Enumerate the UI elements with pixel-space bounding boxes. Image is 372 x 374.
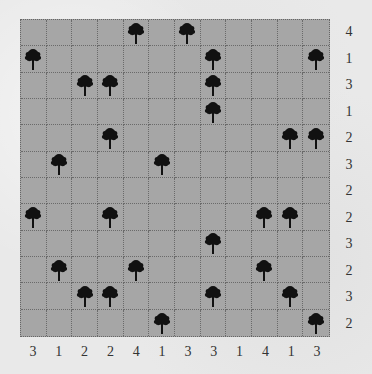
grid-cell-r11-c3[interactable] xyxy=(98,310,124,336)
grid-cell-r5-c6[interactable] xyxy=(175,152,201,178)
grid-cell-r5-c10[interactable] xyxy=(278,152,304,178)
grid-cell-r9-c5[interactable] xyxy=(149,257,175,283)
grid-cell-r2-c10[interactable] xyxy=(278,73,304,99)
grid-cell-r8-c7[interactable] xyxy=(201,231,227,257)
grid-cell-r10-c11[interactable] xyxy=(303,283,329,309)
grid-cell-r6-c0[interactable] xyxy=(21,178,47,204)
grid-cell-r5-c2[interactable] xyxy=(72,152,98,178)
grid-cell-r11-c9[interactable] xyxy=(252,310,278,336)
grid-cell-r2-c3[interactable] xyxy=(98,73,124,99)
grid-cell-r5-c1[interactable] xyxy=(47,152,73,178)
grid-cell-r5-c4[interactable] xyxy=(124,152,150,178)
grid-cell-r0-c8[interactable] xyxy=(226,20,252,46)
grid-cell-r1-c8[interactable] xyxy=(226,46,252,72)
grid-cell-r4-c3[interactable] xyxy=(98,125,124,151)
grid-cell-r8-c1[interactable] xyxy=(47,231,73,257)
grid-cell-r7-c3[interactable] xyxy=(98,204,124,230)
grid-cell-r4-c2[interactable] xyxy=(72,125,98,151)
grid-cell-r2-c5[interactable] xyxy=(149,73,175,99)
grid-cell-r7-c2[interactable] xyxy=(72,204,98,230)
grid-cell-r6-c1[interactable] xyxy=(47,178,73,204)
grid-cell-r6-c3[interactable] xyxy=(98,178,124,204)
grid-cell-r9-c4[interactable] xyxy=(124,257,150,283)
grid-cell-r6-c4[interactable] xyxy=(124,178,150,204)
grid-cell-r6-c7[interactable] xyxy=(201,178,227,204)
grid-cell-r8-c10[interactable] xyxy=(278,231,304,257)
grid-cell-r11-c5[interactable] xyxy=(149,310,175,336)
grid-cell-r11-c10[interactable] xyxy=(278,310,304,336)
grid-cell-r0-c2[interactable] xyxy=(72,20,98,46)
grid-cell-r11-c4[interactable] xyxy=(124,310,150,336)
grid-cell-r4-c4[interactable] xyxy=(124,125,150,151)
grid-cell-r6-c2[interactable] xyxy=(72,178,98,204)
grid-cell-r1-c1[interactable] xyxy=(47,46,73,72)
grid-cell-r3-c6[interactable] xyxy=(175,99,201,125)
grid-cell-r0-c7[interactable] xyxy=(201,20,227,46)
grid-cell-r8-c2[interactable] xyxy=(72,231,98,257)
grid-cell-r8-c5[interactable] xyxy=(149,231,175,257)
grid-cell-r3-c1[interactable] xyxy=(47,99,73,125)
grid-cell-r2-c1[interactable] xyxy=(47,73,73,99)
grid-cell-r0-c9[interactable] xyxy=(252,20,278,46)
grid-cell-r6-c10[interactable] xyxy=(278,178,304,204)
grid-cell-r4-c0[interactable] xyxy=(21,125,47,151)
grid-cell-r10-c10[interactable] xyxy=(278,283,304,309)
grid-cell-r4-c11[interactable] xyxy=(303,125,329,151)
grid-cell-r11-c6[interactable] xyxy=(175,310,201,336)
grid-cell-r2-c4[interactable] xyxy=(124,73,150,99)
grid-cell-r3-c5[interactable] xyxy=(149,99,175,125)
grid-cell-r4-c9[interactable] xyxy=(252,125,278,151)
grid-cell-r11-c2[interactable] xyxy=(72,310,98,336)
grid-cell-r7-c7[interactable] xyxy=(201,204,227,230)
grid-cell-r10-c0[interactable] xyxy=(21,283,47,309)
grid-cell-r0-c4[interactable] xyxy=(124,20,150,46)
grid-cell-r2-c7[interactable] xyxy=(201,73,227,99)
grid-cell-r6-c6[interactable] xyxy=(175,178,201,204)
grid-cell-r3-c9[interactable] xyxy=(252,99,278,125)
grid-cell-r6-c8[interactable] xyxy=(226,178,252,204)
grid-cell-r3-c8[interactable] xyxy=(226,99,252,125)
grid-cell-r5-c8[interactable] xyxy=(226,152,252,178)
grid-cell-r1-c6[interactable] xyxy=(175,46,201,72)
grid-cell-r7-c11[interactable] xyxy=(303,204,329,230)
grid-cell-r10-c5[interactable] xyxy=(149,283,175,309)
grid-cell-r1-c3[interactable] xyxy=(98,46,124,72)
grid-cell-r11-c0[interactable] xyxy=(21,310,47,336)
grid-cell-r10-c9[interactable] xyxy=(252,283,278,309)
grid-cell-r4-c1[interactable] xyxy=(47,125,73,151)
grid-cell-r5-c0[interactable] xyxy=(21,152,47,178)
grid-cell-r11-c1[interactable] xyxy=(47,310,73,336)
grid-cell-r1-c9[interactable] xyxy=(252,46,278,72)
grid-cell-r0-c6[interactable] xyxy=(175,20,201,46)
grid-cell-r7-c4[interactable] xyxy=(124,204,150,230)
grid-cell-r6-c11[interactable] xyxy=(303,178,329,204)
grid-cell-r8-c6[interactable] xyxy=(175,231,201,257)
grid-cell-r11-c11[interactable] xyxy=(303,310,329,336)
grid-cell-r7-c6[interactable] xyxy=(175,204,201,230)
grid-cell-r5-c11[interactable] xyxy=(303,152,329,178)
grid-cell-r2-c9[interactable] xyxy=(252,73,278,99)
grid-cell-r6-c9[interactable] xyxy=(252,178,278,204)
grid-cell-r0-c11[interactable] xyxy=(303,20,329,46)
grid-cell-r9-c6[interactable] xyxy=(175,257,201,283)
grid-cell-r10-c3[interactable] xyxy=(98,283,124,309)
grid-cell-r8-c8[interactable] xyxy=(226,231,252,257)
grid-cell-r10-c4[interactable] xyxy=(124,283,150,309)
grid-cell-r1-c4[interactable] xyxy=(124,46,150,72)
grid-cell-r5-c9[interactable] xyxy=(252,152,278,178)
grid-cell-r4-c6[interactable] xyxy=(175,125,201,151)
grid-cell-r5-c7[interactable] xyxy=(201,152,227,178)
grid-cell-r10-c8[interactable] xyxy=(226,283,252,309)
grid-cell-r2-c11[interactable] xyxy=(303,73,329,99)
grid-cell-r2-c6[interactable] xyxy=(175,73,201,99)
grid-cell-r1-c2[interactable] xyxy=(72,46,98,72)
grid-cell-r5-c3[interactable] xyxy=(98,152,124,178)
grid-cell-r0-c1[interactable] xyxy=(47,20,73,46)
grid-cell-r7-c10[interactable] xyxy=(278,204,304,230)
grid-cell-r3-c4[interactable] xyxy=(124,99,150,125)
grid-cell-r3-c11[interactable] xyxy=(303,99,329,125)
grid-cell-r0-c3[interactable] xyxy=(98,20,124,46)
grid-cell-r9-c3[interactable] xyxy=(98,257,124,283)
grid-cell-r3-c10[interactable] xyxy=(278,99,304,125)
grid-cell-r8-c9[interactable] xyxy=(252,231,278,257)
